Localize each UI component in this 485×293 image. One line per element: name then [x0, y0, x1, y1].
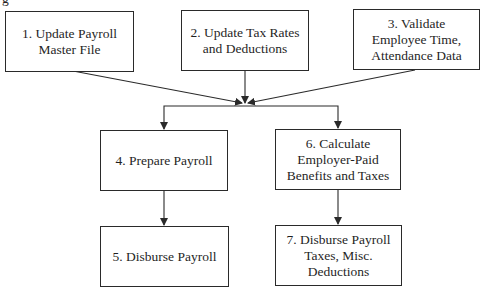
edge-1-to-merge: [73, 71, 242, 103]
node-label: 5. Disburse Payroll: [113, 249, 217, 265]
node-label: 1. Update Payroll Master File: [22, 26, 117, 58]
node-label: 4. Prepare Payroll: [115, 153, 212, 169]
edge-merge-to-6: [245, 106, 338, 128]
node-validate-employee-time: 3. Validate Employee Time, Attendance Da…: [353, 9, 480, 70]
node-label: 2. Update Tax Rates and Deductions: [190, 25, 299, 57]
payroll-process-diagram: g 1. Update Payroll Master File 2. Updat…: [0, 0, 485, 293]
node-label: 6. Calculate Employer-Paid Benefits and …: [287, 136, 389, 184]
node-disburse-payroll: 5. Disburse Payroll: [100, 226, 229, 287]
node-label: 7. Disburse Payroll Taxes, Misc. Deducti…: [287, 232, 391, 280]
node-disburse-payroll-taxes: 7. Disburse Payroll Taxes, Misc. Deducti…: [275, 225, 402, 286]
edge-merge-to-4: [164, 106, 245, 129]
node-update-tax-rates-deductions: 2. Update Tax Rates and Deductions: [181, 10, 309, 71]
edge-3-to-merge: [248, 70, 415, 103]
node-calculate-employer-paid-benefits: 6. Calculate Employer-Paid Benefits and …: [275, 129, 401, 190]
node-label: 3. Validate Employee Time, Attendance Da…: [371, 16, 461, 64]
node-prepare-payroll: 4. Prepare Payroll: [100, 130, 228, 191]
node-update-payroll-master-file: 1. Update Payroll Master File: [5, 11, 134, 72]
